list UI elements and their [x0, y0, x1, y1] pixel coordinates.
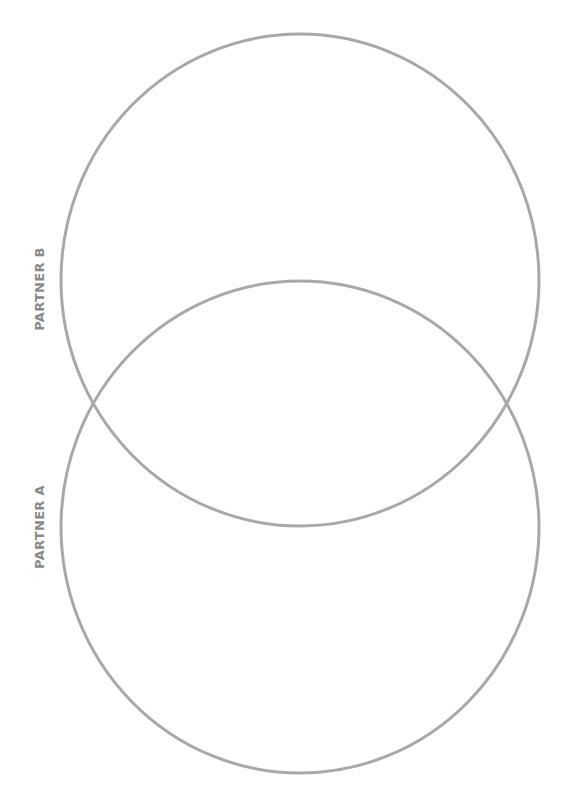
label-partner-b: PARTNER B [32, 239, 48, 339]
venn-diagram [0, 0, 579, 799]
label-partner-a: PARTNER A [32, 477, 48, 577]
